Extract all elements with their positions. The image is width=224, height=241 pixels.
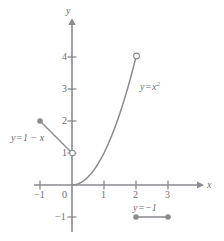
annotation-y-equals-neg1: y=−1	[133, 203, 157, 213]
closed-endpoint-2-neg1	[133, 214, 139, 220]
open-endpoint-0-1	[70, 150, 76, 156]
plot-canvas	[0, 0, 224, 241]
y-tick-label--1: −1	[55, 212, 66, 222]
annotation-y-equals-1-minus-x: y=1 − x	[11, 133, 44, 143]
parabola-curve	[72, 57, 136, 185]
x-axis-arrowhead	[197, 181, 204, 188]
annotation-eq-constant: =	[137, 202, 145, 213]
annotation-eq-parabola: =	[144, 81, 152, 92]
x-tick-label-1: 1	[101, 190, 106, 200]
series-constant-neg1	[133, 214, 171, 220]
x-axis-label: x	[207, 180, 211, 190]
y-tick-label-1: 1	[62, 148, 67, 158]
annotation-y-equals-x-squared: y=x2	[140, 82, 160, 92]
series-parabola-x-squared	[72, 53, 139, 185]
annotation-exponent-parabola: 2	[157, 80, 161, 88]
y-tick-label-3: 3	[62, 84, 67, 94]
annotation-rhs-constant: −1	[145, 202, 157, 213]
y-axis	[68, 18, 75, 232]
y-tick-label-2: 2	[62, 116, 67, 126]
annotation-eq-line: =	[15, 132, 23, 143]
function-graph-figure: y x 0 −1 1 2 3 −1 1 2 3 4 y=1 − x y=x2 y…	[0, 0, 224, 241]
y-axis-arrowhead	[68, 18, 75, 25]
x-axis	[34, 181, 204, 188]
closed-endpoint-3-neg1	[165, 214, 171, 220]
y-tick-label-4: 4	[62, 52, 67, 62]
closed-endpoint-neg1-2	[37, 118, 43, 124]
y-axis-label: y	[66, 6, 70, 16]
x-tick-label-3: 3	[165, 190, 170, 200]
open-endpoint-2-4	[134, 53, 140, 59]
x-tick-label--1: −1	[34, 190, 45, 200]
annotation-rhs-line: 1 − x	[23, 132, 44, 143]
origin-tick-label: 0	[62, 190, 67, 200]
line-segment-1-minus-x	[40, 121, 72, 153]
x-tick-label-2: 2	[133, 190, 138, 200]
